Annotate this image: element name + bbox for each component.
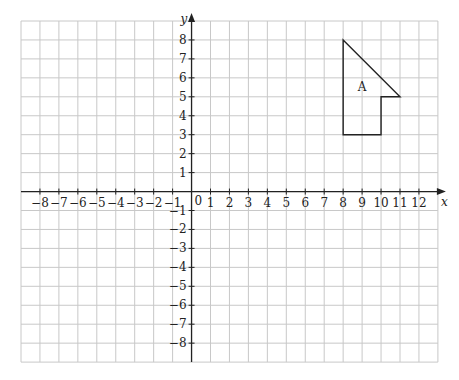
x-tick-label: 1: [207, 196, 215, 210]
x-tick-label: 11: [392, 196, 407, 210]
axes: [21, 13, 446, 362]
x-tick-label: −6: [69, 196, 87, 210]
coordinate-grid: −8−7−6−5−4−3−2−112345678910111287654321−…: [0, 0, 459, 380]
y-tick-label: −4: [169, 260, 187, 274]
x-tick-label: 2: [226, 196, 234, 210]
y-tick-label: −5: [169, 279, 187, 293]
shapes: A: [343, 40, 400, 135]
x-tick-label: −4: [107, 196, 125, 210]
x-tick-label: −7: [50, 196, 68, 210]
x-tick-label: −2: [145, 196, 163, 210]
y-tick-label: 3: [179, 128, 187, 142]
y-tick-label: 8: [179, 33, 187, 47]
x-tick-label: 3: [245, 196, 253, 210]
x-tick-label: 5: [282, 196, 290, 210]
y-tick-label: 2: [179, 147, 187, 161]
x-tick-label: −3: [126, 196, 144, 210]
origin-label: 0: [195, 194, 203, 208]
x-tick-label: 12: [411, 196, 426, 210]
shape-a: [343, 40, 400, 135]
y-axis-arrow-icon: [188, 13, 195, 22]
x-tick-label: −8: [31, 196, 49, 210]
y-tick-label: −8: [169, 336, 187, 350]
y-tick-label: −1: [169, 204, 187, 218]
x-tick-label: 4: [264, 196, 272, 210]
y-tick-label: 4: [179, 109, 187, 123]
y-axis-label: y: [180, 12, 188, 26]
y-tick-label: −7: [169, 317, 187, 331]
x-tick-label: 10: [373, 196, 388, 210]
x-tick-label: 6: [301, 196, 309, 210]
x-tick-label: 9: [358, 196, 366, 210]
tick-labels: −8−7−6−5−4−3−2−112345678910111287654321−…: [31, 12, 448, 350]
x-tick-label: 8: [339, 196, 347, 210]
y-tick-label: −2: [169, 222, 187, 236]
x-tick-label: −5: [88, 196, 106, 210]
y-tick-label: −6: [169, 298, 187, 312]
x-tick-label: 7: [320, 196, 328, 210]
shape-label: A: [357, 80, 367, 94]
y-tick-label: 1: [179, 166, 187, 180]
y-tick-label: 6: [179, 71, 187, 85]
y-tick-label: 5: [179, 90, 187, 104]
y-tick-label: −3: [169, 241, 187, 255]
y-tick-label: 7: [179, 52, 187, 66]
x-axis-label: x: [441, 195, 448, 209]
